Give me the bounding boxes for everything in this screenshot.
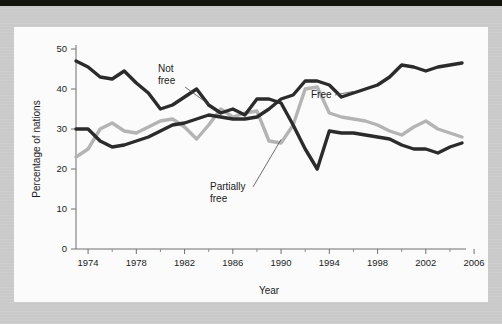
y-axis-title: Percentage of nations	[31, 100, 42, 197]
y-axis-ticks: 01020304050	[56, 43, 76, 254]
figure-card: 01020304050 1974197819821986199019941998…	[14, 27, 488, 302]
x-tick-label: 2006	[463, 257, 484, 268]
y-tick-label: 10	[56, 203, 67, 214]
annotation-partially-free-line1: Partially	[210, 181, 246, 192]
x-tick-label: 1982	[174, 257, 195, 268]
y-tick-label: 40	[56, 83, 67, 94]
series-line-not-free	[76, 61, 462, 169]
line-chart: 01020304050 1974197819821986199019941998…	[14, 27, 488, 302]
annotation-not-free-line1: Not	[158, 63, 174, 74]
y-tick-label: 50	[56, 43, 67, 54]
y-tick-label: 30	[56, 123, 67, 134]
x-tick-label: 1998	[367, 257, 388, 268]
x-axis-title: Year	[259, 285, 280, 296]
annotation-free: Free	[311, 89, 332, 100]
x-tick-label: 1986	[222, 257, 243, 268]
annotation-not-free-line2: free	[158, 75, 176, 86]
y-tick-label: 20	[56, 163, 67, 174]
x-tick-label: 1978	[126, 257, 147, 268]
annotation-partially-free-line2: free	[210, 193, 228, 204]
x-tick-label: 2002	[415, 257, 436, 268]
x-tick-label: 1990	[270, 257, 291, 268]
data-series-group	[76, 61, 462, 169]
x-axis-ticks: 197419781982198619901994199820022006	[77, 249, 484, 268]
y-tick-label: 0	[62, 243, 67, 254]
chart-canvas: 01020304050 1974197819821986199019941998…	[14, 27, 488, 302]
x-tick-label: 1974	[77, 257, 98, 268]
x-tick-label: 1994	[319, 257, 340, 268]
page-root: 01020304050 1974197819821986199019941998…	[0, 0, 502, 324]
